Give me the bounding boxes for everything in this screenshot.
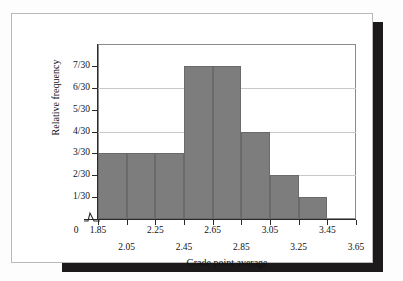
origin-label: 0 — [69, 225, 83, 235]
plot-area — [98, 44, 356, 219]
figure-card: 7/306/305/304/303/302/301/30 Relative fr… — [11, 13, 373, 263]
x-axis-tick-label: 3.05 — [250, 225, 290, 235]
y-axis-tick — [92, 153, 98, 154]
x-axis-tick-label: 2.65 — [193, 225, 233, 235]
x-axis-tick-label: 2.85 — [221, 242, 261, 252]
histogram-bar — [184, 66, 213, 219]
y-axis-tick-label: 1/30 — [50, 191, 90, 201]
x-axis-tick — [127, 220, 128, 225]
y-axis-tick-label: 2/30 — [50, 169, 90, 179]
histogram-bar — [155, 153, 184, 219]
x-axis-tick-label: 2.25 — [135, 225, 175, 235]
y-axis-tick — [92, 197, 98, 198]
x-axis-title: Grade point average — [98, 257, 356, 268]
histogram-bar — [270, 175, 299, 219]
figure-page: 7/306/305/304/303/302/301/30 Relative fr… — [0, 0, 403, 281]
x-axis-tick-label: 2.05 — [107, 242, 147, 252]
histogram-bar — [127, 153, 156, 219]
x-axis-tick — [356, 220, 357, 225]
x-axis-line — [84, 219, 356, 220]
y-axis-tick — [92, 66, 98, 67]
x-axis-tick-label: 2.45 — [164, 242, 204, 252]
histogram-bar — [98, 153, 127, 219]
y-axis-tick — [92, 88, 98, 89]
histogram-bar — [241, 132, 270, 220]
x-axis-tick — [241, 220, 242, 225]
x-axis-tick-label: 3.45 — [307, 225, 347, 235]
y-axis-tick — [92, 110, 98, 111]
x-axis-tick-label: 3.65 — [336, 242, 376, 252]
x-axis-tick — [299, 220, 300, 225]
axis-break-icon — [84, 210, 100, 222]
y-axis-title: Relative frequency — [50, 38, 61, 158]
x-axis-tick-label: 1.85 — [78, 225, 118, 235]
x-axis-tick — [184, 220, 185, 225]
x-axis-tick-label: 3.25 — [279, 242, 319, 252]
histogram-bar — [213, 66, 242, 219]
y-axis-tick — [92, 175, 98, 176]
card-shadow-right — [373, 22, 383, 272]
y-axis-tick — [92, 132, 98, 133]
histogram-bar — [299, 197, 328, 219]
